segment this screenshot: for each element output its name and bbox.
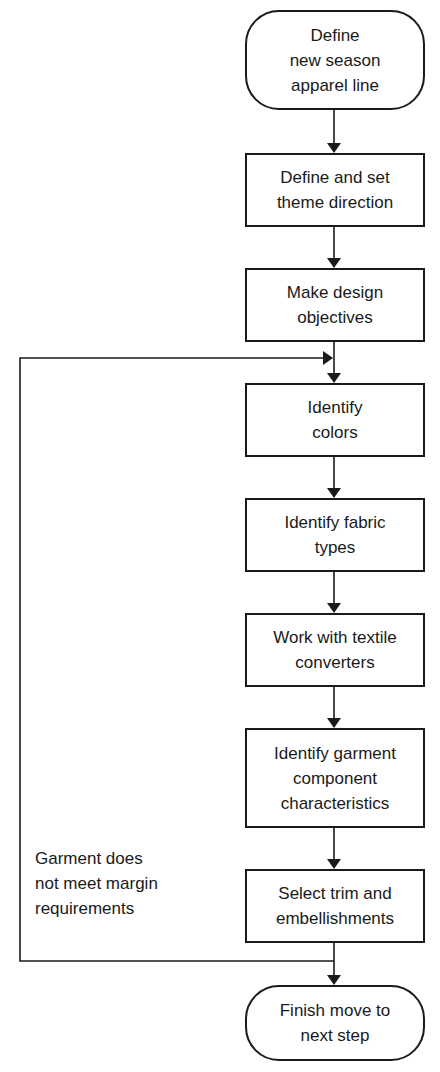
node-text: new season <box>290 48 381 73</box>
node-text: component <box>293 766 377 791</box>
node-text: Finish move to <box>280 998 391 1023</box>
node-text: characteristics <box>281 791 390 816</box>
garment-characteristics-box: Identify garment component characteristi… <box>245 728 425 828</box>
finish-terminal: Finish move to next step <box>245 985 425 1061</box>
node-text: Select trim and <box>278 881 391 906</box>
trim-embellishments-box: Select trim and embellishments <box>245 869 425 943</box>
design-objectives-box: Make design objectives <box>245 268 425 342</box>
theme-direction-box: Define and set theme direction <box>245 153 425 227</box>
node-text: colors <box>312 420 357 445</box>
node-text: embellishments <box>276 906 394 931</box>
node-text: next step <box>301 1023 370 1048</box>
node-text: theme direction <box>277 190 393 215</box>
node-text: Identify fabric <box>284 510 385 535</box>
node-text: objectives <box>297 305 373 330</box>
fabric-types-box: Identify fabric types <box>245 498 425 572</box>
note-text: requirements <box>35 896 158 921</box>
node-text: converters <box>295 650 374 675</box>
start-terminal: Define new season apparel line <box>245 10 425 110</box>
node-text: Define <box>310 23 359 48</box>
identify-colors-box: Identify colors <box>245 383 425 457</box>
note-text: not meet margin <box>35 871 158 896</box>
node-text: Identify <box>308 395 363 420</box>
note-text: Garment does <box>35 846 158 871</box>
loop-condition-label: Garment does not meet margin requirement… <box>35 846 158 921</box>
textile-converters-box: Work with textile converters <box>245 613 425 687</box>
node-text: Work with textile <box>273 625 396 650</box>
node-text: apparel line <box>291 73 379 98</box>
node-text: Define and set <box>280 165 390 190</box>
node-text: Identify garment <box>274 741 396 766</box>
node-text: Make design <box>287 280 383 305</box>
node-text: types <box>315 535 356 560</box>
